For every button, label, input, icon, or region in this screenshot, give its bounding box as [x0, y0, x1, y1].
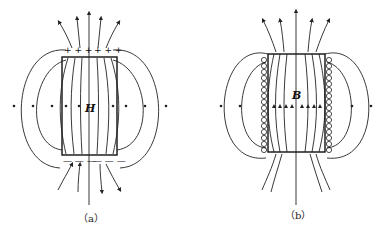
- panel-a: + + + + + + — — — — — — H （a）: [13, 13, 168, 224]
- panel-b: B （b）: [220, 11, 373, 221]
- svg-text:+ + +: + + +: [64, 45, 92, 55]
- svg-text:— — —: — — —: [63, 156, 96, 166]
- caption-b: （b）: [285, 210, 311, 221]
- svg-text:— — —: — — —: [93, 156, 126, 166]
- magnetic-field-diagram: + + + + + + — — — — — — H （a）: [0, 0, 380, 236]
- field-symbol-h: H: [84, 102, 96, 115]
- svg-text:+ + +: + + +: [94, 45, 122, 55]
- field-symbol-b: B: [291, 89, 301, 102]
- caption-a: （a）: [78, 213, 104, 224]
